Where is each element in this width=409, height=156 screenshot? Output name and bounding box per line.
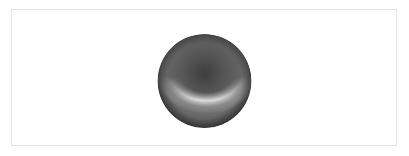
sphere-icon bbox=[157, 34, 252, 128]
sphere-graphic bbox=[157, 34, 252, 128]
